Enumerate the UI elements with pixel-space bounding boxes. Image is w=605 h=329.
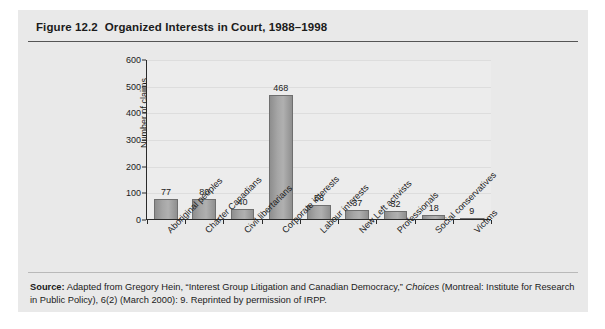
source-label: Source: [30,282,65,292]
source-text: Adapted from Gregory Hein, “Interest Gro… [30,282,575,305]
y-axis-tick-label: 0 [136,215,141,225]
bar-value-label: 77 [161,187,171,197]
bar-value-label: 468 [273,83,288,93]
source-divider [28,272,578,273]
bar-chart: Number of claims 0100200300400500600 778… [18,46,588,264]
bar-value-label: 9 [469,206,474,216]
y-axis-tick-label: 400 [126,108,141,118]
source-italic-title: Choices [406,282,440,292]
y-axis-tick-label: 300 [126,135,141,145]
figure-box: Figure 12.2Organized Interests in Court,… [18,10,588,312]
bar-slot: 77 [147,60,185,220]
y-axis-tick-label: 500 [126,82,141,92]
title-divider [28,41,578,42]
y-axis-tick-label: 200 [126,162,141,172]
y-axis-tick-label: 600 [126,55,141,65]
source-note: Source: Adapted from Gregory Hein, “Inte… [30,281,578,306]
figure-title-text: Organized Interests in Court, 1988–1998 [105,21,327,33]
figure-title: Figure 12.2Organized Interests in Court,… [36,21,327,33]
figure-number: Figure 12.2 [36,21,98,33]
y-axis-tick-label: 100 [126,188,141,198]
